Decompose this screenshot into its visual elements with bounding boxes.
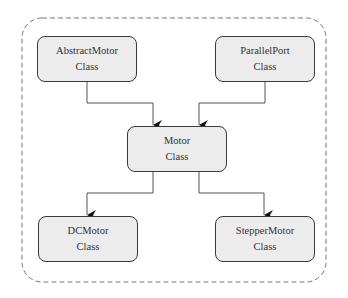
node-sublabel: Class [254, 59, 277, 75]
edge-abstractmotor-motor [87, 81, 153, 125]
node-label: StepperMotor [236, 223, 294, 239]
edge-parallelport-motor [199, 81, 265, 125]
node-stepper-motor: StepperMotor Class [215, 216, 315, 262]
node-abstract-motor: AbstractMotor Class [37, 36, 137, 82]
node-label: DCMotor [68, 223, 109, 239]
edge-motor-dcmotor [87, 171, 153, 215]
node-sublabel: Class [76, 59, 99, 75]
node-motor: Motor Class [127, 126, 227, 172]
edge-motor-steppermotor [199, 171, 264, 215]
node-sublabel: Class [254, 239, 277, 255]
node-label: ParallelPort [240, 43, 290, 59]
node-sublabel: Class [166, 149, 189, 165]
node-dc-motor: DCMotor Class [38, 216, 138, 262]
node-parallel-port: ParallelPort Class [215, 36, 315, 82]
node-label: AbstractMotor [56, 43, 118, 59]
node-sublabel: Class [77, 239, 100, 255]
node-label: Motor [164, 133, 190, 149]
